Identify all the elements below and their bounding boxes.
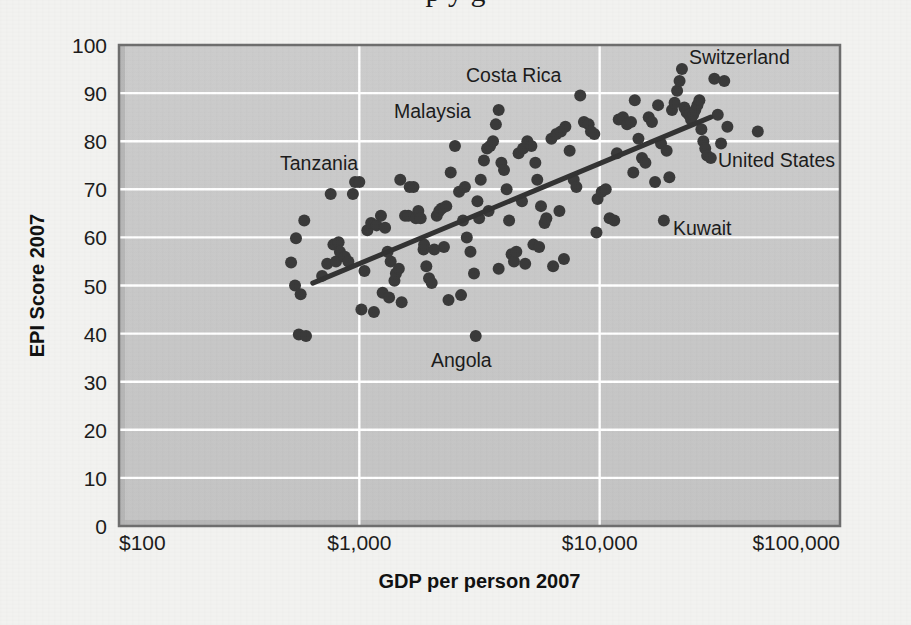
scatter-point [600,183,612,195]
scatter-point [553,205,565,217]
annotation-united-states: United States [718,149,835,171]
scatter-point [712,109,724,121]
scatter-point [718,75,730,87]
scatter-point [646,116,658,128]
scatter-point [443,294,455,306]
scatter-point [715,138,727,150]
scatter-point [705,152,717,164]
scatter-point [420,260,432,272]
scatter-point [475,174,487,186]
scatter-point [540,212,552,224]
scatter-point [501,183,513,195]
scatter-point [493,263,505,275]
highlighted-point-kuwait [658,215,670,227]
scatter-point [487,135,499,147]
scatter-point [503,215,515,227]
annotation-switzerland: Switzerland [689,46,790,68]
y-tick-label: 100 [72,34,107,57]
scatter-point [676,63,688,75]
scatter-point [459,181,471,193]
scatter-point [393,263,405,275]
y-axis-title: EPI Score 2007 [26,214,48,357]
scatter-point [558,253,570,265]
scatter-point [383,292,395,304]
x-tick-label: $100 [119,531,166,554]
x-tick-label: $1,000 [327,531,391,554]
scatter-point [529,157,541,169]
scatter-point [525,140,537,152]
scatter-point [585,126,597,138]
scatter-point [564,145,576,157]
scatter-point [629,94,641,106]
scatter-point [415,212,427,224]
y-tick-label: 60 [84,226,107,249]
scatter-point [300,330,312,342]
scatter-point [325,188,337,200]
scatter-point [547,260,559,272]
scatter-point [478,154,490,166]
scatter-point [693,94,705,106]
scatter-point [652,99,664,111]
scatter-point [531,174,543,186]
scatter-point [493,104,505,116]
scatter-point [663,171,675,183]
scatter-point [355,304,367,316]
y-tick-label: 80 [84,130,107,153]
annotation-malaysia: Malaysia [394,100,471,122]
scatter-point [353,176,365,188]
y-tick-label: 40 [84,323,107,346]
scatter-point [471,195,483,207]
y-tick-label: 10 [84,467,107,490]
scatter-point [396,296,408,308]
scatter-point [298,215,310,227]
scatter-point [649,176,661,188]
scatter-point [426,277,438,289]
scatter-point [519,258,531,270]
y-tick-label: 30 [84,371,107,394]
chart-svg: TanzaniaMalaysiaCosta RicaSwitzerlandUni… [0,0,911,625]
scatter-point [590,227,602,239]
scatter-point [639,157,651,169]
scatter-point [358,265,370,277]
scatter-point [379,222,391,234]
scatter-point [721,121,733,133]
scatter-point [449,140,461,152]
scatter-point [468,267,480,279]
y-tick-label: 20 [84,419,107,442]
scatter-point [490,118,502,130]
scatter-point [368,306,380,318]
annotation-kuwait: Kuwait [673,217,732,239]
scatter-point [461,231,473,243]
y-axis-tick-labels: 0102030405060708090100 [72,34,107,538]
scatter-point [394,174,406,186]
scatter-point [440,200,452,212]
scatter-point [290,232,302,244]
scatter-point [574,90,586,102]
x-tick-label: $100,000 [752,531,840,554]
y-tick-label: 50 [84,275,107,298]
scatter-point [285,256,297,268]
scatter-point [661,145,673,157]
scatter-point [510,246,522,258]
scatter-point [533,241,545,253]
scatter-point [535,200,547,212]
annotation-angola: Angola [431,349,492,371]
annotation-costa-rica: Costa Rica [466,64,562,86]
scatter-point [708,73,720,85]
x-tick-label: $10,000 [562,531,638,554]
scatter-chart-figure: TanzaniaMalaysiaCosta RicaSwitzerlandUni… [0,0,911,625]
y-tick-label: 0 [95,515,107,538]
scatter-point [455,289,467,301]
scatter-point [407,181,419,193]
x-axis-tick-labels: $100$1,000$10,000$100,000 [119,531,840,554]
highlighted-point-united-states [752,126,764,138]
highlighted-point-angola [470,330,482,342]
annotation-tanzania: Tanzania [280,152,358,174]
y-tick-label: 90 [84,82,107,105]
scatter-point [608,215,620,227]
scatter-point [674,75,686,87]
scatter-point [295,288,307,300]
scatter-point [627,166,639,178]
y-tick-label: 70 [84,178,107,201]
scatter-point [570,181,582,193]
